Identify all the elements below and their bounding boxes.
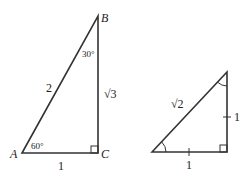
side-label-base: 1	[58, 159, 64, 173]
vertex-label-c: C	[101, 147, 110, 161]
right-angle-marker	[91, 146, 98, 153]
side-label-hypotenuse: √2	[171, 97, 184, 111]
angle-arc-top-right	[218, 82, 228, 86]
triangle-45-45-90: √2 1 1	[152, 72, 240, 172]
side-label-hypotenuse: 2	[46, 81, 52, 95]
angle-arc-bottom-left	[162, 142, 166, 152]
side-label-vertical: √3	[104, 87, 117, 101]
side-label-base: 1	[186, 158, 192, 172]
vertex-label-a: A	[9, 147, 18, 161]
vertex-label-b: B	[101, 11, 109, 25]
right-angle-marker	[220, 145, 227, 152]
triangle-30-60-90: B A C 30° 60° 2 √3 1	[9, 11, 117, 173]
side-label-vertical: 1	[234, 110, 240, 124]
angle-label-b: 30°	[82, 49, 95, 59]
diagram-canvas: B A C 30° 60° 2 √3 1 √2 1 1	[0, 0, 243, 176]
angle-label-a: 60°	[31, 141, 44, 151]
